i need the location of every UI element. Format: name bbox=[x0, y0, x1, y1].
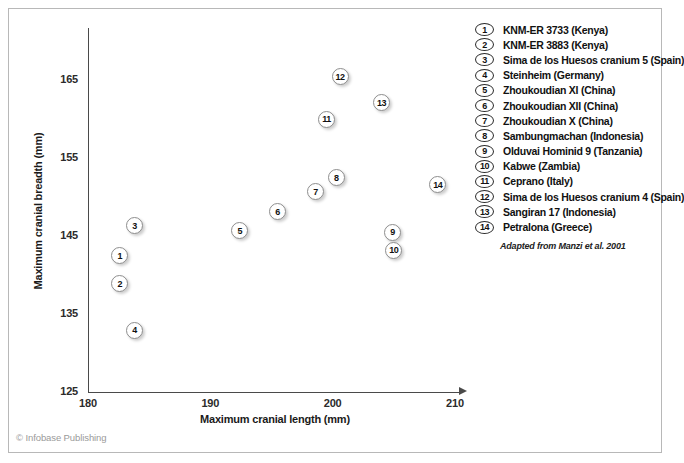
legend-item: 4Steinheim (Germany) bbox=[475, 68, 661, 83]
x-tick-label: 180 bbox=[68, 397, 108, 409]
legend-item: 5Zhoukoudian XI (China) bbox=[475, 83, 661, 98]
legend-item-label: Olduvai Hominid 9 (Tanzania) bbox=[503, 145, 642, 157]
legend-item: 2KNM-ER 3883 (Kenya) bbox=[475, 37, 661, 52]
x-axis-title: Maximum cranial length (mm) bbox=[150, 413, 400, 425]
legend-item: 13Sangiran 17 (Indonesia) bbox=[475, 204, 661, 219]
legend-marker-circle: 7 bbox=[475, 114, 494, 127]
legend-item: 9Olduvai Hominid 9 (Tanzania) bbox=[475, 144, 661, 159]
legend-item: 12Sima de los Huesos cranium 4 (Spain) bbox=[475, 189, 661, 204]
y-tick-label: 125 bbox=[48, 385, 78, 397]
scatter-point: 1 bbox=[111, 247, 128, 264]
y-axis-line bbox=[88, 28, 89, 393]
scatter-point: 9 bbox=[384, 224, 401, 241]
legend-item-label: Sima de los Huesos cranium 5 (Spain) bbox=[503, 54, 684, 66]
legend-marker-circle: 5 bbox=[475, 84, 494, 97]
y-tick-label: 155 bbox=[48, 151, 78, 163]
scatter-point: 12 bbox=[332, 68, 349, 85]
copyright-notice: © Infobase Publishing bbox=[16, 432, 106, 443]
x-tick-label: 190 bbox=[190, 397, 230, 409]
legend-marker-circle: 1 bbox=[475, 23, 494, 36]
scatter-point: 6 bbox=[269, 203, 286, 220]
legend-marker-circle: 12 bbox=[475, 190, 494, 203]
legend-marker-circle: 9 bbox=[475, 145, 494, 158]
legend-marker-circle: 8 bbox=[475, 129, 494, 142]
scatter-point: 5 bbox=[231, 222, 248, 239]
legend-item: 8Sambungmachan (Indonesia) bbox=[475, 128, 661, 143]
scatter-point: 4 bbox=[126, 322, 143, 339]
y-tick-label: 165 bbox=[48, 73, 78, 85]
scatter-point: 2 bbox=[111, 275, 128, 292]
legend-marker-circle: 4 bbox=[475, 69, 494, 82]
legend-item-label: Sangiran 17 (Indonesia) bbox=[503, 206, 616, 218]
y-tick-label: 135 bbox=[48, 307, 78, 319]
x-axis-line bbox=[88, 392, 463, 393]
y-axis-title: Maximum cranial breadth (mm) bbox=[32, 116, 44, 306]
scatter-point: 3 bbox=[126, 217, 143, 234]
legend-item-label: Ceprano (Italy) bbox=[503, 175, 573, 187]
scatter-point: 11 bbox=[318, 111, 335, 128]
legend-item-label: Kabwe (Zambia) bbox=[503, 160, 580, 172]
legend-item: 3Sima de los Huesos cranium 5 (Spain) bbox=[475, 52, 661, 67]
scatter-point: 10 bbox=[385, 242, 402, 259]
legend-marker-circle: 14 bbox=[475, 221, 494, 234]
scatter-point: 14 bbox=[429, 176, 446, 193]
legend-item-label: Zhoukoudian XII (China) bbox=[503, 100, 618, 112]
legend-marker-circle: 11 bbox=[475, 175, 494, 188]
x-tick-label: 200 bbox=[313, 397, 353, 409]
legend-item: 6Zhoukoudian XII (China) bbox=[475, 98, 661, 113]
source-note: Adapted from Manzi et al. 2001 bbox=[500, 241, 626, 251]
legend-item-label: Steinheim (Germany) bbox=[503, 69, 604, 81]
x-tick-label: 210 bbox=[435, 397, 475, 409]
legend-item: 10Kabwe (Zambia) bbox=[475, 159, 661, 174]
legend-item: 1KNM-ER 3733 (Kenya) bbox=[475, 22, 661, 37]
legend-item: 7Zhoukoudian X (China) bbox=[475, 113, 661, 128]
legend-marker-circle: 10 bbox=[475, 160, 494, 173]
scatter-point: 8 bbox=[328, 169, 345, 186]
legend-item-label: Petralona (Greece) bbox=[503, 221, 592, 233]
scatter-point: 7 bbox=[307, 183, 324, 200]
legend-item-label: Sima de los Huesos cranium 4 (Spain) bbox=[503, 191, 684, 203]
legend-item-label: KNM-ER 3883 (Kenya) bbox=[503, 39, 608, 51]
legend-marker-circle: 13 bbox=[475, 205, 494, 218]
legend-marker-circle: 2 bbox=[475, 38, 494, 51]
legend-marker-circle: 6 bbox=[475, 99, 494, 112]
legend-item: 11Ceprano (Italy) bbox=[475, 174, 661, 189]
legend-item-label: Zhoukoudian XI (China) bbox=[503, 84, 615, 96]
legend-marker-circle: 3 bbox=[475, 53, 494, 66]
x-axis-arrow-icon bbox=[459, 387, 467, 395]
legend-item-label: Zhoukoudian X (China) bbox=[503, 115, 613, 127]
y-tick-label: 145 bbox=[48, 229, 78, 241]
legend-item-label: KNM-ER 3733 (Kenya) bbox=[503, 24, 608, 36]
legend: 1KNM-ER 3733 (Kenya)2KNM-ER 3883 (Kenya)… bbox=[475, 22, 661, 235]
legend-item-label: Sambungmachan (Indonesia) bbox=[503, 130, 643, 142]
scatter-point: 13 bbox=[373, 94, 390, 111]
legend-item: 14Petralona (Greece) bbox=[475, 219, 661, 234]
